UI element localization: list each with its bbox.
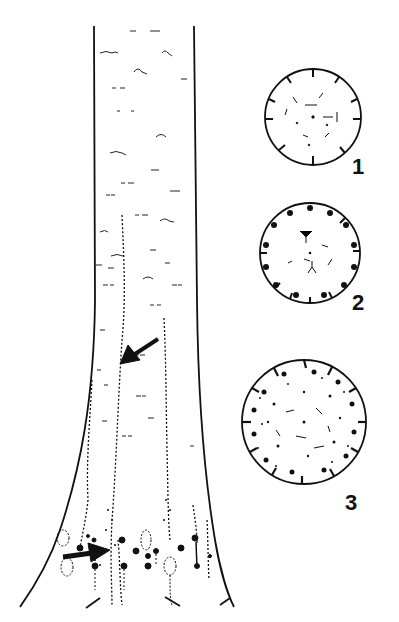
tree-trunk-illustration [0, 0, 399, 622]
streak-stipple [94, 499, 171, 566]
cross-section-1 [265, 69, 361, 165]
cross-section-2 [260, 203, 360, 303]
cross-section-3 [242, 360, 366, 484]
cross-section-label-3: 3 [345, 492, 357, 514]
cross-section-label-1: 1 [352, 156, 364, 178]
root-flares [86, 597, 230, 608]
bark-marks [96, 31, 194, 446]
trunk-outline [20, 26, 234, 607]
cross-section-label-2: 2 [352, 292, 364, 314]
upper-arrow-icon [120, 339, 158, 364]
wound-rings [57, 530, 176, 605]
base-wounds [77, 535, 212, 591]
